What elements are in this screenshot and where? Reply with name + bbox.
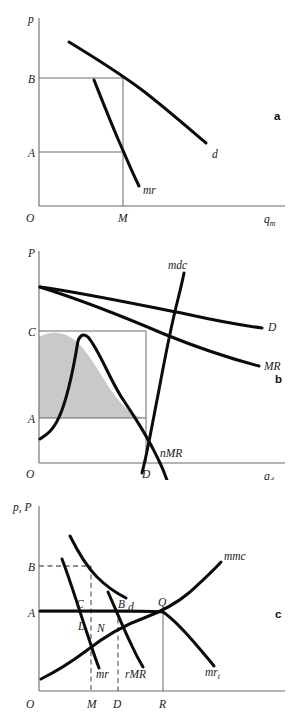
panel-c-mark-D: D <box>112 698 122 710</box>
panel-b-label-nMR: nMR <box>160 447 182 459</box>
panel-b-mark-D: D <box>141 468 151 480</box>
panel-a: p B A O M qm d mr <box>0 0 294 235</box>
panel-a-mark-A: A <box>27 147 36 159</box>
panel-c-mark-M: M <box>86 698 98 710</box>
panel-b-y-axis-label: P <box>27 247 35 259</box>
panel-c-mark-B: B <box>28 561 35 573</box>
panel-c-mark-A: A <box>27 607 36 619</box>
panel-a-label-d: d <box>212 148 218 160</box>
panel-b-curve-D <box>40 287 262 328</box>
panel-c-curve-d <box>70 536 126 598</box>
panel-a-mark-M: M <box>117 212 129 224</box>
panel-c-label-mr: mr <box>96 668 109 680</box>
panel-c: p, P B A O M D R C B Q L N d mmc mr rMR … <box>0 480 294 721</box>
panel-c-mark-R: R <box>158 698 166 710</box>
panel-c-label-rMR: rMR <box>125 668 146 680</box>
panel-b-mark-A: A <box>27 413 36 425</box>
panel-c-point-N: N <box>96 622 106 634</box>
panel-c-origin-label: O <box>26 698 35 710</box>
panel-a-label-mr: mr <box>143 184 156 196</box>
panel-a-curve-d <box>69 42 206 143</box>
panel-c-curve-rMR <box>108 592 143 667</box>
panel-a-mark-B: B <box>28 73 35 85</box>
panel-b-mark-C: C <box>28 326 36 338</box>
panel-a-y-axis-label: p <box>27 13 34 26</box>
panel-c-y-axis-label: p, P <box>12 501 32 514</box>
panel-a-curve-mr <box>94 80 139 186</box>
panel-c-point-Q: Q <box>158 596 167 608</box>
panel-a-origin-label: O <box>26 212 35 224</box>
panel-b-label-MR: MR <box>263 360 281 372</box>
panel-c-point-L: L <box>77 620 84 632</box>
panel-b-origin-label: O <box>26 468 35 480</box>
panel-c-point-C: C <box>76 598 84 610</box>
panel-b-x-axis-label: qd <box>264 470 274 480</box>
panel-b-label-mdc: mdc <box>168 259 187 271</box>
panel-c-label-d: d <box>128 601 134 613</box>
panel-c-label-mrt: mrt <box>205 666 221 681</box>
panel-tag-a: a <box>274 110 280 122</box>
panel-b: P C A O D qd mdc D MR nMR <box>0 235 294 480</box>
panel-tag-c: c <box>275 608 281 620</box>
panel-c-label-mmc: mmc <box>224 550 246 562</box>
panel-a-x-axis-label: qm <box>264 213 276 228</box>
panel-c-point-B: B <box>118 598 125 610</box>
panel-b-label-D: D <box>267 321 277 333</box>
panel-tag-b: b <box>275 373 282 385</box>
figure-root: p B A O M qm d mr a P <box>0 0 294 721</box>
